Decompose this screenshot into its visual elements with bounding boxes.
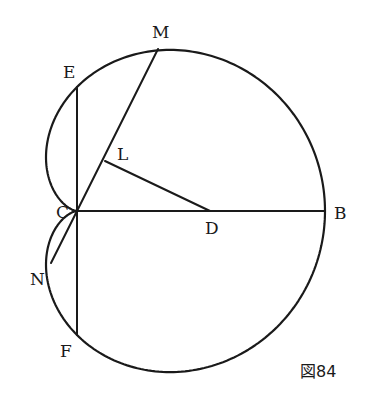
segment-cm [77,49,158,211]
cardioid-diagram: CDBMEFLN 図84 [0,0,370,400]
label-point-l: L [117,144,128,164]
label-point-c: C [56,202,69,222]
label-point-e: E [63,62,75,82]
line-segments [51,49,325,335]
label-point-d: D [205,218,219,238]
segment-ld [105,161,210,211]
label-point-f: F [60,341,72,361]
label-point-b: B [334,203,347,223]
label-point-m: M [152,22,169,42]
figure-caption: 図84 [300,362,336,381]
label-point-n: N [30,269,45,289]
